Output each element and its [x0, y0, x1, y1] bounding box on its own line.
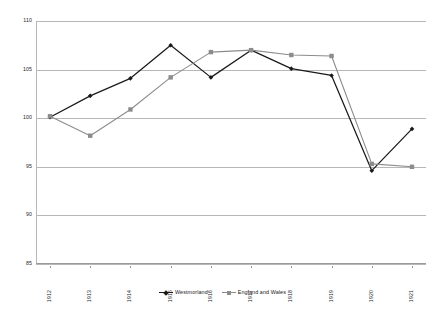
legend-item-2[interactable]: England and Wales	[222, 289, 286, 296]
plot-area: 859095100105110	[36, 21, 426, 264]
data-point	[289, 66, 294, 71]
x-tick-mark	[171, 266, 172, 268]
data-point	[410, 165, 414, 169]
legend-swatch-icon	[222, 289, 236, 296]
legend-label: England and Wales	[238, 290, 286, 295]
legend-swatch-icon	[159, 289, 173, 296]
x-tick-mark	[291, 266, 292, 268]
x-tick-mark	[130, 266, 131, 268]
x-tick-mark	[90, 266, 91, 268]
y-tick-label: 90	[26, 213, 32, 218]
x-tick-mark	[50, 266, 51, 268]
series-layer	[36, 21, 426, 264]
data-point	[48, 114, 52, 118]
data-point	[249, 48, 253, 52]
data-point	[329, 73, 334, 78]
y-tick-label: 100	[23, 116, 32, 121]
x-tick-mark	[332, 266, 333, 268]
x-tick-mark	[372, 266, 373, 268]
line-chart: 859095100105110 191219131914191519161917…	[0, 0, 445, 311]
series-line-1	[50, 45, 412, 170]
legend-item-1[interactable]: Westmorland	[159, 289, 208, 296]
x-tick-mark	[251, 266, 252, 268]
x-tick-mark	[211, 266, 212, 268]
data-point	[209, 50, 213, 54]
data-point	[370, 162, 374, 166]
data-point	[329, 54, 333, 58]
data-point	[289, 53, 293, 57]
x-tick-mark	[412, 266, 413, 268]
data-point	[168, 75, 172, 79]
data-point	[128, 107, 132, 111]
chart-legend: WestmorlandEngland and Wales	[0, 289, 445, 296]
data-point	[88, 133, 92, 137]
y-tick-label: 110	[23, 18, 32, 23]
series-line-2	[50, 50, 412, 167]
gridline-85	[36, 264, 426, 265]
y-tick-label: 105	[23, 67, 32, 72]
y-tick-label: 95	[26, 164, 32, 169]
data-point	[88, 94, 93, 99]
legend-label: Westmorland	[175, 290, 208, 295]
y-tick-label: 85	[26, 261, 32, 266]
